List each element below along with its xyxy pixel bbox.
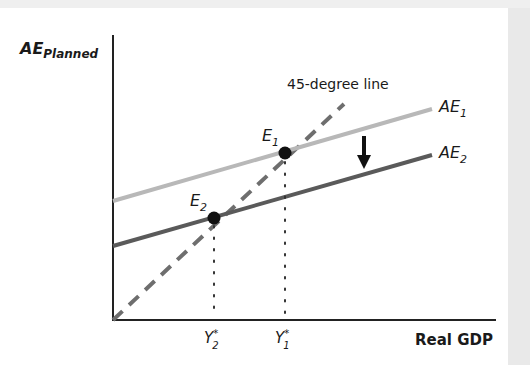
y-axis-label: AEPlanned — [18, 39, 99, 61]
ae2-line — [113, 155, 432, 246]
e2-point — [208, 212, 221, 225]
e1-label: E1 — [262, 126, 279, 149]
shift-down-arrow-icon — [357, 136, 371, 169]
ae1-label: AE1 — [438, 97, 467, 120]
x-axis-label: Real GDP — [415, 331, 493, 349]
ae-diagram: AEPlanned Real GDP 45-degree line AE1 AE… — [0, 0, 530, 365]
ae1-line — [113, 109, 432, 201]
y1-star-label: Y*1 — [275, 328, 290, 351]
45-degree-line-label: 45-degree line — [287, 76, 389, 92]
e2-label: E2 — [190, 191, 207, 214]
ae2-label: AE2 — [438, 143, 467, 166]
e1-point — [279, 147, 292, 160]
y2-star-label: Y*2 — [204, 328, 219, 351]
